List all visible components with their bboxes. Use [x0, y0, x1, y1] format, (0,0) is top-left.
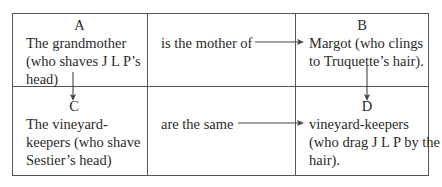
cell-a-line-2: (who shaves J L P’s — [26, 52, 141, 70]
cell-b-line-2: to Truquette’s hair). — [309, 52, 424, 70]
cell-c-letter: C — [12, 97, 136, 115]
cell-d-letter: D — [295, 97, 439, 115]
column-divider-1 — [147, 13, 148, 176]
cell-c-line-1: The vineyard- — [26, 115, 108, 133]
cell-a-line-3: head) — [26, 70, 58, 88]
cell-d-line-2: (who drag J L P by the — [309, 133, 440, 151]
relation-bottom-text: are the same — [161, 115, 233, 133]
cell-d-line-3: hair). — [309, 151, 340, 169]
cell-d-line-1: vineyard-keepers — [309, 115, 409, 133]
column-divider-2 — [295, 13, 296, 176]
cell-a-letter: A — [12, 16, 147, 34]
cell-a-line-1: The grandmother — [26, 34, 126, 52]
cell-c-line-2: keepers (who shave — [26, 133, 140, 151]
cell-b-letter: B — [295, 16, 429, 34]
relation-top-text: is the mother of — [161, 34, 252, 52]
cell-c-line-3: Sestier’s head) — [26, 151, 112, 169]
row-divider — [12, 86, 429, 87]
cell-b-line-1: Margot (who clings — [309, 34, 423, 52]
